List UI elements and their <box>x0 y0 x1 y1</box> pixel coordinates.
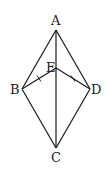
point-label-d: D <box>91 82 101 97</box>
segment-dc <box>56 89 90 148</box>
point-label-c: C <box>51 150 61 165</box>
equal-mark-be <box>37 76 41 82</box>
equal-mark-ed <box>71 76 75 82</box>
segment-bc <box>22 89 56 148</box>
geometry-figure: A E B D C <box>0 0 108 171</box>
point-label-b: B <box>10 82 20 97</box>
point-label-e: E <box>46 60 56 75</box>
point-label-a: A <box>50 13 61 28</box>
segment-ad <box>56 30 90 89</box>
